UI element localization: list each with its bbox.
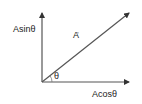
vector-label: → A (73, 31, 79, 40)
diagram-graphics (0, 0, 142, 104)
vector-diagram: Asinθ → A θ Acosθ (0, 0, 142, 104)
horizontal-component-label: Acosθ (92, 90, 117, 99)
angle-arc (50, 76, 52, 82)
vector-arrow-symbol: → (74, 29, 80, 35)
angle-label: θ (54, 72, 59, 81)
vertical-component-label: Asinθ (13, 25, 36, 34)
